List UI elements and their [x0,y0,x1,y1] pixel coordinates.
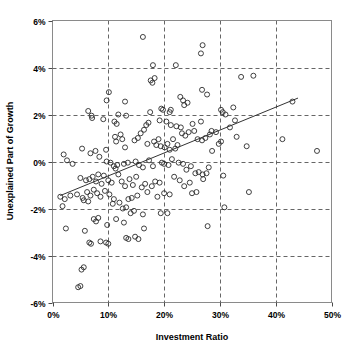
data-point [152,76,157,81]
data-point [205,92,210,97]
data-point [171,137,176,142]
y-tick-label: 6% [33,17,46,27]
data-point [181,161,186,166]
trend-line [60,98,298,196]
data-point [244,144,249,149]
data-point [104,147,109,152]
data-point [182,184,187,189]
data-point [86,199,91,204]
data-point [123,99,128,104]
y-tick-label: -6% [30,299,46,309]
y-tick-label: -2% [30,205,46,215]
data-point [120,206,125,211]
axis-tick-labels: 0%10%20%30%40%50%6%4%2%0%-2%-4%-6% [30,17,341,320]
data-point [167,192,172,197]
x-tick-label: 0% [47,310,60,320]
data-point [123,184,128,189]
data-point [142,226,147,231]
data-point [60,204,65,209]
data-point [239,74,244,79]
data-point [98,239,103,244]
y-tick-label: 0% [33,158,46,168]
data-point [110,201,115,206]
data-point [123,145,128,150]
data-point [172,174,177,179]
data-point [114,139,119,144]
data-point [61,152,66,157]
data-point [75,192,80,197]
data-point [129,195,134,200]
data-point [148,110,153,115]
data-point [184,167,189,172]
data-point [150,63,155,68]
data-point [97,154,102,159]
data-point [231,105,236,110]
data-point [155,194,160,199]
data-point [98,194,103,199]
data-point [119,179,124,184]
data-point [93,148,98,153]
data-point [143,181,148,186]
grid-lines [53,21,332,303]
data-point [178,125,183,130]
data-point [145,190,150,195]
scatter-chart-figure: 0%10%20%30%40%50%6%4%2%0%-2%-4%-6% Inves… [0,0,349,349]
data-point [221,173,226,178]
data-point [62,197,67,202]
data-point [68,193,73,198]
data-point [168,123,173,128]
data-point [140,34,145,39]
data-point [200,43,205,48]
regression-trend-line [60,98,298,196]
y-tick-label: 2% [33,111,46,121]
data-point [165,211,170,216]
data-point [157,180,162,185]
data-point [206,165,211,170]
data-point [135,193,140,198]
data-point [200,87,205,92]
data-point [205,224,210,229]
data-point [88,193,93,198]
data-point [145,141,150,146]
data-point [126,197,131,202]
x-axis-title: Investment Ratio [156,332,229,342]
data-point [160,107,165,112]
data-point [210,148,215,153]
data-point [232,118,237,123]
data-point [251,73,256,78]
x-tick-label: 30% [212,310,229,320]
data-point [280,137,285,142]
data-point [201,177,206,182]
data-point [114,217,119,222]
data-point [111,197,116,202]
data-point [166,163,171,168]
data-point [70,161,75,166]
data-point [130,183,135,188]
data-point [83,178,88,183]
data-point [118,132,123,137]
y-tick-label: 4% [33,64,46,74]
data-point [82,228,87,233]
data-point [88,151,93,156]
data-point [96,172,101,177]
x-tick-label: 20% [156,310,173,320]
data-point [314,148,319,153]
data-point [169,157,174,162]
data-point [80,146,85,151]
data-point [186,130,191,135]
data-point [142,127,147,132]
data-point [187,180,192,185]
data-point [102,188,107,193]
data-point [188,164,193,169]
data-point [101,117,106,122]
data-point [86,108,91,113]
data-point [121,220,126,225]
data-point [177,178,182,183]
data-point [140,165,145,170]
plot-frame [53,21,332,303]
y-tick-label: -4% [30,252,46,262]
data-point [116,112,121,117]
data-point [149,184,154,189]
data-point [150,164,155,169]
data-point [107,192,112,197]
